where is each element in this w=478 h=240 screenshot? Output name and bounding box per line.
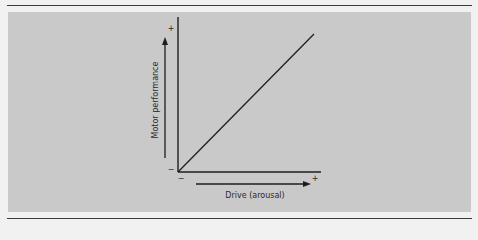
y-arrow-icon xyxy=(162,37,168,158)
y-axis-label: Motor performance xyxy=(151,62,160,139)
bottom-rule xyxy=(7,218,472,219)
x-minus-sign: − xyxy=(178,175,185,183)
x-axis-label: Drive (arousal) xyxy=(225,191,284,200)
x-arrow-icon xyxy=(196,181,311,187)
data-line xyxy=(178,34,314,172)
y-plus-sign: + xyxy=(168,25,175,33)
x-plus-sign: + xyxy=(312,175,319,183)
y-minus-sign: − xyxy=(168,166,175,174)
